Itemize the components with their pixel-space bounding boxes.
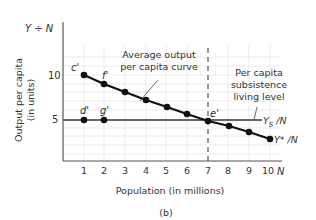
point-label-c: c'	[71, 62, 79, 73]
ys-series-label: YS /N	[263, 115, 287, 129]
y-axis-label-line1: Output per capita	[13, 58, 24, 142]
svg-text:9: 9	[246, 165, 252, 176]
subs-label-line3: living level	[233, 91, 284, 102]
x-ticks: 1 2 3 4 5 6 7 8 9 10	[81, 165, 274, 176]
point-label-e: e'	[210, 108, 219, 119]
y-axis-symbol: Y ÷ N	[25, 23, 54, 34]
subs-label-line1: Per capita	[235, 67, 282, 78]
ystar-series-label: Y* /N	[274, 134, 298, 145]
avg-curve-label-line2: per capita curve	[120, 61, 198, 72]
svg-text:3: 3	[122, 165, 128, 176]
svg-text:8: 8	[225, 165, 231, 176]
y-tick-10: 10	[48, 70, 61, 81]
point-label-f: f'	[102, 70, 108, 81]
point-label-d: d'	[80, 105, 89, 116]
svg-text:5: 5	[163, 165, 169, 176]
svg-text:6: 6	[184, 165, 190, 176]
svg-text:4: 4	[143, 165, 149, 176]
svg-text:10: 10	[262, 165, 274, 176]
x-axis-label: Population (in millions)	[116, 185, 225, 196]
y-axis-label-line2: (in units)	[25, 79, 36, 121]
y-tick-5: 5	[52, 114, 58, 125]
svg-text:1: 1	[81, 165, 87, 176]
avg-curve-label-line1: Average output	[122, 49, 196, 60]
subs-leader-line	[254, 107, 257, 120]
chart-figure: Y ÷ N 10 5 Output per capita (in units) …	[0, 0, 316, 220]
subs-label-line2: subsistence	[231, 79, 287, 90]
x-axis-symbol: N	[277, 166, 285, 177]
panel-label: (b)	[159, 207, 172, 218]
svg-text:2: 2	[101, 165, 107, 176]
point-label-g: g'	[100, 105, 109, 116]
avg-leader-line	[140, 80, 158, 101]
svg-text:7: 7	[205, 165, 211, 176]
